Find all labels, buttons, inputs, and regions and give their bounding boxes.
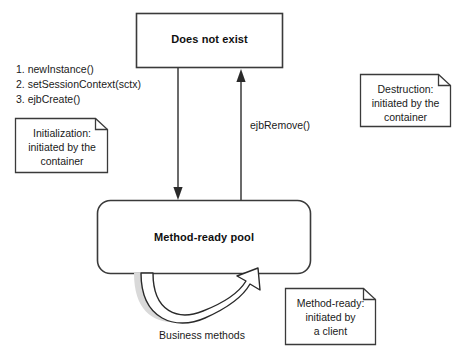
diagram-graphics [0,0,463,354]
note-label-method-ready: Method-ready: initiated by a client [286,296,375,339]
list-item: 2. setSessionContext(sctx) [16,77,191,92]
note-line: container [16,154,108,168]
note-label-initialization: Initialization: initiated by the contain… [16,126,108,169]
state-label-method-ready-pool: Method-ready pool [97,231,311,243]
edge-label-ejb-remove: ejbRemove() [250,119,310,131]
edge-label-business-methods: Business methods [122,329,282,341]
diagram-canvas: Does not exist Method-ready pool 1. newI… [0,0,463,354]
loop-arrow-body [141,268,260,323]
initialization-steps-list: 1. newInstance() 2. setSessionContext(sc… [16,62,191,108]
note-line: Method-ready: [286,296,375,310]
note-line: a client [286,324,375,338]
note-line: Destruction: [361,82,450,96]
note-line: initiated by [286,310,375,324]
list-item: 3. ejbCreate() [16,92,191,107]
note-line: Initialization: [16,126,108,140]
transition-arrow-ejb-remove [236,69,245,201]
note-label-destruction: Destruction: initiated by the container [361,82,450,125]
note-line: container [361,110,450,124]
state-label-does-not-exist: Does not exist [136,33,283,45]
transition-loop-business-methods [134,268,260,323]
list-item: 1. newInstance() [16,62,191,77]
note-line: initiated by the [16,140,108,154]
note-line: initiated by the [361,96,450,110]
